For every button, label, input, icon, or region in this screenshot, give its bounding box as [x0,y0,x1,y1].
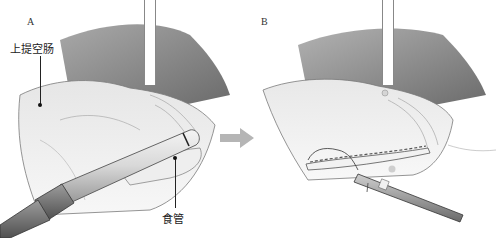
callout-esophagus-label: 食管 [162,210,184,226]
callout-jejunum-leader-line [40,56,41,104]
panel-b: B [248,0,496,238]
callout-esophagus-leader-line [175,158,176,208]
surgical-illustration-figure: A 上提空肠 食管 [0,0,496,238]
panel-b-illustration [248,0,496,238]
panel-label-b: B [261,16,268,27]
callout-jejunum-pointer-dot [38,103,42,107]
callout-esophagus-pointer-dot [173,156,177,160]
panel-a: A 上提空肠 食管 [0,0,230,238]
callout-jejunum-label: 上提空肠 [10,40,54,56]
panel-a-illustration [0,0,230,238]
panel-label-a: A [27,16,34,27]
